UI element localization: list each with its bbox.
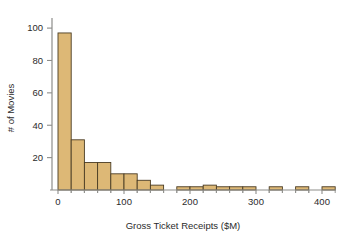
- y-axis-tick-label: 60: [32, 87, 43, 98]
- histogram-bar: [124, 174, 137, 190]
- histogram-bar: [137, 180, 150, 190]
- histogram-bar: [150, 185, 163, 190]
- x-axis-tick-label: 200: [182, 196, 198, 207]
- histogram-bar: [111, 174, 124, 190]
- y-axis-tick-label: 100: [27, 22, 43, 33]
- chart-background: [0, 0, 341, 246]
- x-axis-tick-label: 400: [314, 196, 330, 207]
- x-axis-title: Gross Ticket Receipts ($M): [126, 220, 241, 231]
- histogram-figure: 010020030040020406080100 Gross Ticket Re…: [0, 0, 341, 246]
- y-axis-tick-label: 80: [32, 55, 43, 66]
- histogram-bar: [203, 185, 216, 190]
- histogram-bar: [71, 140, 84, 190]
- y-axis-tick-label: 40: [32, 120, 43, 131]
- x-axis-tick-label: 300: [248, 196, 264, 207]
- histogram-bar: [98, 162, 111, 190]
- x-axis-tick-label: 0: [55, 196, 60, 207]
- histogram-chart: 010020030040020406080100 Gross Ticket Re…: [0, 0, 341, 246]
- histogram-bar: [58, 33, 71, 190]
- x-axis-tick-label: 100: [116, 196, 132, 207]
- y-axis-title: # of Movies: [5, 83, 16, 132]
- histogram-bar: [84, 162, 97, 190]
- y-axis-tick-label: 20: [32, 152, 43, 163]
